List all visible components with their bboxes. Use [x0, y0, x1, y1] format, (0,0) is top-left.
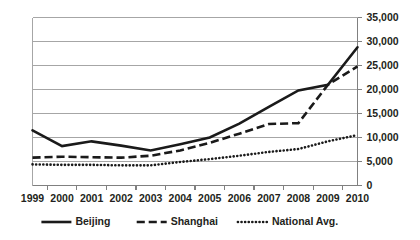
y-axis-tick-label: 5,000 [367, 155, 393, 167]
x-axis-tick-label: 2000 [50, 192, 74, 204]
chart-canvas: 05,00010,00015,00020,00025,00030,00035,0… [0, 0, 420, 240]
y-axis-tick-label: 35,000 [367, 11, 399, 23]
x-axis-tick-label: 1999 [21, 192, 45, 204]
x-axis-tick-label: 2005 [198, 192, 222, 204]
chart-legend: BeijingShanghaiNational Avg. [41, 215, 338, 227]
y-axis-tick-label: 30,000 [367, 35, 399, 47]
x-axis-tick-label: 2006 [228, 192, 252, 204]
x-axis-tick-label: 2001 [80, 192, 104, 204]
legend-label: Beijing [75, 215, 110, 227]
y-axis-tick-label: 25,000 [367, 59, 399, 71]
series-layer [33, 47, 358, 165]
x-axis-tick-label: 2010 [346, 192, 370, 204]
x-axis-tick-label: 2002 [109, 192, 133, 204]
x-axis: 1999200020012002200320042005200620072008… [21, 186, 370, 204]
legend-label: Shanghai [171, 215, 218, 227]
series-line-beijing [33, 47, 358, 150]
x-axis-tick-label: 2007 [257, 192, 281, 204]
legend-label: National Avg. [272, 215, 338, 227]
y-axis-tick-label: 10,000 [367, 131, 399, 143]
y-axis-tick-label: 15,000 [367, 107, 399, 119]
y-axis: 05,00010,00015,00020,00025,00030,00035,0… [358, 11, 399, 191]
x-axis-tick-label: 2009 [316, 192, 340, 204]
line-chart: 05,00010,00015,00020,00025,00030,00035,0… [0, 0, 420, 240]
x-axis-tick-label: 2008 [287, 192, 311, 204]
y-axis-tick-label: 0 [367, 179, 373, 191]
y-axis-tick-label: 20,000 [367, 83, 399, 95]
x-axis-tick-label: 2004 [169, 192, 193, 204]
x-axis-tick-label: 2003 [139, 192, 163, 204]
